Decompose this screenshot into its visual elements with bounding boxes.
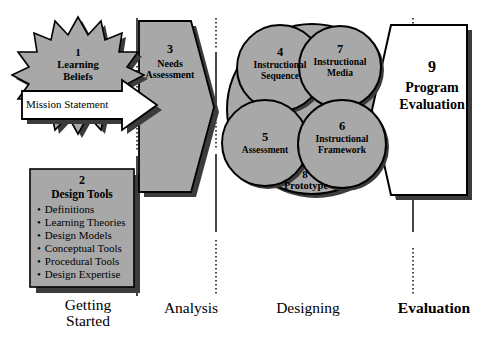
phase-label-designing: Designing [253,300,363,316]
program-evaluation-shape [372,25,467,195]
design-tools-list: Definitions Learning Theories Design Mod… [37,203,137,281]
phase-label-analysis: Analysis [143,300,239,316]
instructional-framework-circle [298,100,386,188]
assessment-circle [222,100,308,186]
instructional-media-circle [299,26,381,108]
phase-label-getting-started: Getting Started [40,297,136,330]
design-tools-item: Design Models [37,229,137,241]
design-tools-item: Definitions [37,203,137,215]
design-tools-item: Procedural Tools [37,255,137,267]
phase-label-evaluation: Evaluation [378,300,490,316]
diagram-canvas [0,0,493,341]
design-tools-item: Conceptual Tools [37,242,137,254]
instructional-design-diagram: 1 Learning Beliefs Mission Statement 3 N… [0,0,493,341]
design-tools-item: Design Expertise [37,268,137,280]
design-tools-item: Learning Theories [37,216,137,228]
